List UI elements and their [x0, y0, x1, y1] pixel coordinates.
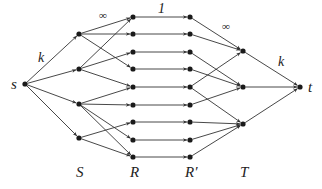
edges-layer [27, 17, 298, 157]
edge-Rp4-T2 [192, 70, 240, 86]
node-S2 [76, 66, 81, 71]
edge-S3-R5 [81, 88, 130, 103]
edge-T3-t [245, 89, 297, 123]
node-Rp6 [187, 102, 192, 107]
layer-label: R [129, 164, 139, 180]
edge-Rp7-T3 [193, 122, 240, 124]
node-R1 [130, 14, 135, 19]
node-T2 [240, 84, 245, 89]
edge-s-S2 [28, 70, 77, 83]
capacity-label: 1 [158, 1, 165, 16]
node-S4 [76, 135, 81, 140]
edge-Rp6-T2 [192, 88, 240, 104]
labels-layer: k∞1∞kstSRR′T [11, 1, 313, 180]
edge-Rp8-T3 [192, 125, 240, 139]
layer-label: T [240, 164, 250, 180]
capacity-label: ∞ [222, 20, 230, 32]
flow-network-diagram: k∞1∞kstSRR′T [0, 0, 322, 189]
node-R6 [130, 102, 135, 107]
node-s [22, 81, 27, 86]
edge-S2-R5 [81, 70, 130, 86]
edge-Rp2-T1 [192, 35, 240, 50]
node-R9 [130, 154, 135, 159]
node-Rp7 [187, 119, 192, 124]
node-Rp9 [187, 154, 192, 159]
capacity-label: k [38, 50, 45, 65]
edge-s-S1 [27, 36, 77, 82]
node-R3 [130, 49, 135, 54]
capacity-label: ∞ [99, 9, 107, 21]
node-label-s: s [11, 76, 17, 92]
node-T1 [240, 48, 245, 53]
edge-S2-R3 [81, 53, 130, 68]
edge-S1-R4 [81, 35, 130, 67]
node-Rp5 [187, 84, 192, 89]
node-t [297, 84, 302, 89]
layer-label: S [76, 164, 84, 180]
layer-label: R′ [184, 164, 198, 180]
node-S3 [76, 101, 81, 106]
edge-Rp1-T1 [192, 18, 240, 49]
node-Rp1 [187, 14, 192, 19]
edge-S2-R1 [81, 19, 131, 67]
edge-S4-R7 [81, 123, 130, 137]
node-Rp3 [187, 49, 192, 54]
edge-S3-R6 [82, 104, 130, 105]
node-R7 [130, 119, 135, 124]
edge-s-S4 [27, 86, 77, 136]
node-R2 [130, 31, 135, 36]
node-Rp4 [187, 66, 192, 71]
edge-Rp5-T3 [192, 88, 240, 122]
node-Rp8 [187, 137, 192, 142]
node-R8 [130, 137, 135, 142]
node-R4 [130, 66, 135, 71]
edge-Rp9-T3 [192, 126, 240, 156]
node-Rp2 [187, 31, 192, 36]
node-S1 [76, 31, 81, 36]
capacity-label: k [278, 54, 285, 69]
node-R5 [130, 84, 135, 89]
edge-T1-t [245, 52, 297, 85]
node-T3 [240, 121, 245, 126]
node-label-t: t [308, 79, 313, 95]
edge-S3-R8 [81, 105, 130, 138]
